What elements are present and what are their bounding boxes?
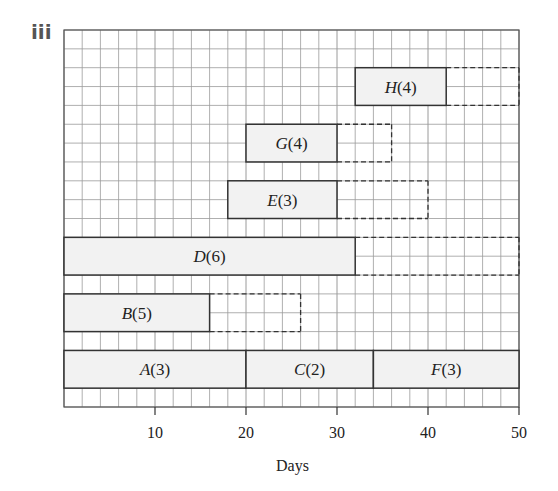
task-bars: A(3)C(2)F(3)B(5)D(6)E(3)G(4)H(4) <box>64 68 519 388</box>
gantt-chart: A(3)C(2)F(3)B(5)D(6)E(3)G(4)H(4) 1020304… <box>0 0 558 491</box>
task-a: A(3) <box>64 350 246 388</box>
task-label: H(4) <box>384 78 417 97</box>
task-label: G(4) <box>275 134 307 153</box>
x-tick-label: 40 <box>420 424 436 441</box>
task-label: D(6) <box>193 247 226 266</box>
task-f: F(3) <box>373 350 519 388</box>
x-axis-title: Days <box>276 457 309 475</box>
task-label: A(3) <box>139 360 170 379</box>
x-tick-label: 10 <box>147 424 163 441</box>
x-tick-label: 20 <box>238 424 254 441</box>
task-c: C(2) <box>246 350 373 388</box>
task-label: C(2) <box>294 360 325 379</box>
task-label: E(3) <box>266 191 297 210</box>
x-tick-label: 50 <box>511 424 527 441</box>
x-axis: 1020304050Days <box>147 407 527 475</box>
x-tick-label: 30 <box>329 424 345 441</box>
task-label: B(5) <box>122 304 152 323</box>
task-label: F(3) <box>430 360 461 379</box>
